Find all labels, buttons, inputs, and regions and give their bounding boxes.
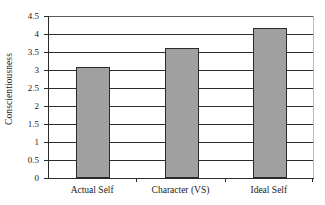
y-axis-tick-label: 1 — [16, 138, 42, 147]
y-axis-tick-label: 4 — [16, 30, 42, 39]
bars-layer — [49, 16, 314, 178]
y-axis-tick-label: 1.5 — [16, 120, 42, 129]
y-axis-tick-label: 2 — [16, 102, 42, 111]
x-axis-category-label: Character (VS) — [152, 184, 210, 196]
y-axis-tick-label: 0 — [16, 174, 42, 183]
y-axis-tick-label: 3.5 — [16, 48, 42, 57]
plot-area — [48, 16, 314, 179]
bar — [253, 28, 287, 178]
x-axis-tick-marks — [48, 178, 314, 183]
x-axis-tick-mark — [136, 178, 137, 182]
y-axis-title-text: Conscientiousness — [4, 53, 14, 125]
y-axis-tick-label: 3 — [16, 66, 42, 75]
y-axis-tick-label: 2.5 — [16, 84, 42, 93]
y-axis-tick-label: 4.5 — [16, 12, 42, 21]
y-axis-tick-labels: 4.543.532.521.510.50 — [16, 0, 42, 205]
y-axis-tick-label: 0.5 — [16, 156, 42, 165]
bar — [76, 67, 110, 178]
x-axis-tick-mark — [225, 178, 226, 182]
bar — [165, 48, 199, 178]
x-axis-category-labels: Actual SelfCharacter (VS)Ideal Self — [48, 184, 313, 202]
x-axis-category-label: Actual Self — [71, 184, 114, 196]
x-axis-tick-mark — [312, 178, 313, 182]
bar-chart: Conscientiousness 4.543.532.521.510.50 A… — [0, 0, 325, 205]
x-axis-category-label: Ideal Self — [250, 184, 287, 196]
